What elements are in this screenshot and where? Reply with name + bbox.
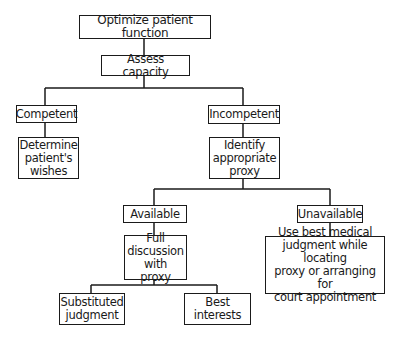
flowchart: Optimize patient function Assess capacit… — [0, 0, 406, 338]
node-unavailable: Unavailable — [297, 205, 363, 223]
node-assess-capacity: Assess capacity — [101, 55, 190, 76]
node-best-interests: Best interests — [184, 293, 251, 325]
node-incompetent: Incompetent — [208, 105, 280, 124]
node-optimize-patient-function: Optimize patient function — [79, 15, 211, 39]
node-determine-patients-wishes: Determine patient's wishes — [18, 137, 79, 179]
node-use-best-medical-judgment: Use best medical judgment while locating… — [265, 236, 385, 294]
node-substituted-judgment: Substituted judgment — [59, 293, 125, 325]
node-full-discussion-with-proxy: Full discussion with proxy — [124, 235, 187, 280]
node-available: Available — [123, 205, 187, 223]
node-competent: Competent — [16, 105, 77, 123]
node-identify-appropriate-proxy: Identify appropriate proxy — [209, 137, 280, 179]
